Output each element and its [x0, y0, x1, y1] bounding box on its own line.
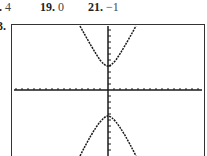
hyperbola-graph	[0, 0, 207, 156]
